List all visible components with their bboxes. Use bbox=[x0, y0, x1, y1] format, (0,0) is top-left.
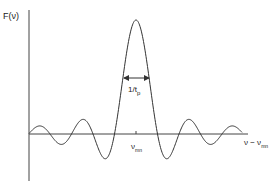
width-label: 1/tp bbox=[128, 85, 141, 96]
center-label-sub: mn bbox=[135, 147, 142, 153]
x-axis-label-main: ν − ν bbox=[244, 138, 261, 147]
x-axis-label-sub: mn bbox=[261, 143, 268, 149]
width-label-sub: p bbox=[137, 90, 141, 96]
center-label: νmn bbox=[131, 142, 142, 153]
sinc-spectrum-diagram: F(ν) 1/tp νmn ν − νmn bbox=[0, 0, 279, 186]
y-axis-label: F(ν) bbox=[3, 11, 19, 21]
x-axis-label: ν − νmn bbox=[244, 138, 268, 149]
